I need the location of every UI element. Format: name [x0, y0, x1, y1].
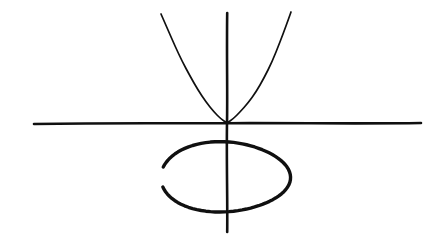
figure-canvas [0, 0, 442, 251]
sketch-svg [0, 0, 442, 251]
